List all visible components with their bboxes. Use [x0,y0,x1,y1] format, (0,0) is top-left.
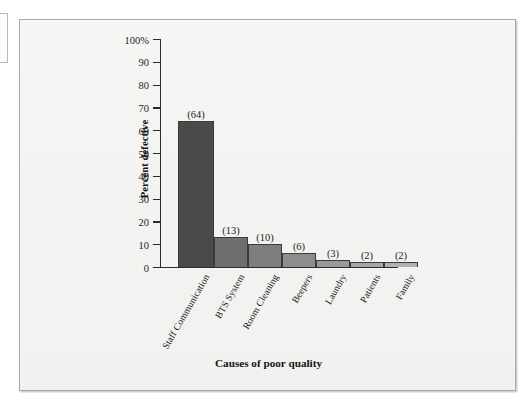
bar-value-label: (2) [361,250,373,261]
chart-canvas: 100%9080706050403020100 (64)(13)(10)(6)(… [20,20,515,390]
x-axis-category-label: Staff Communication [160,272,212,351]
bar: (13) [214,237,248,267]
x-axis-category-label: Family [393,272,416,302]
x-axis-category-label: BTS System [212,272,246,320]
bar-value-label: (6) [293,241,305,252]
bar: (10) [248,244,282,267]
bar: (3) [316,260,350,267]
y-axis-tick-label: 90 [139,57,150,68]
y-axis-tick-label: 20 [139,217,150,228]
y-axis-tick: 50 [153,153,160,154]
y-axis-title: Percent defective [138,120,150,199]
y-axis-tick: 90 [153,62,160,63]
y-axis-tick-label: 100% [125,34,150,45]
bar: (2) [350,262,384,267]
screenshot-root: 100%9080706050403020100 (64)(13)(10)(6)(… [0,0,531,404]
bar-value-label: (13) [222,225,240,236]
plot-area: 100%9080706050403020100 (64)(13)(10)(6)(… [20,20,517,392]
x-axis-title: Causes of poor quality [20,357,517,369]
y-axis-tick-label: 70 [139,103,150,114]
bar: (2) [384,262,418,267]
y-axis-tick: 70 [153,107,160,108]
x-axis-category-label: Beepers [289,272,314,305]
bar-value-label: (10) [256,232,274,243]
page-edge-artifact [0,13,8,63]
y-axis-tick: 40 [153,176,160,177]
bar: (6) [282,253,316,267]
y-axis-tick: 100% [153,39,160,40]
y-axis-tick: 0 [153,267,160,268]
bar-value-label: (2) [395,250,407,261]
bar-series: (64)(13)(10)(6)(3)(2)(2) [160,39,398,267]
y-axis-tick: 10 [153,244,160,245]
y-axis-tick: 30 [153,199,160,200]
x-axis-category-label: Laundry [322,272,348,306]
y-axis-tick-label: 0 [144,262,149,273]
bar-value-label: (64) [187,109,205,120]
y-axis-tick-label: 80 [139,80,150,91]
y-axis-tick: 20 [153,221,160,222]
bar-value-label: (3) [327,248,339,259]
chart-figure-frame: 100%9080706050403020100 (64)(13)(10)(6)(… [19,19,516,391]
bar: (64) [178,121,214,267]
x-axis-category-label: Patients [357,272,382,305]
y-axis-tick-label: 10 [139,239,150,250]
x-axis-category-label: Room Cleaning [240,272,280,331]
y-axis-tick: 60 [153,130,160,131]
y-axis-tick: 80 [153,85,160,86]
